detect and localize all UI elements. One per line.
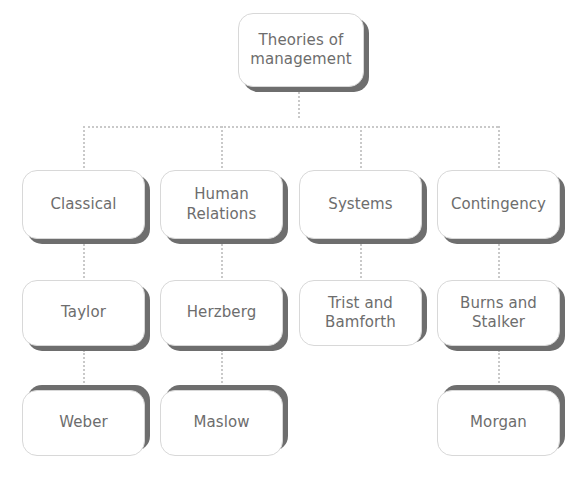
node-morgan-label: Morgan <box>464 413 533 432</box>
node-root-label: Theories of management <box>244 31 357 69</box>
diagram-canvas: Theories of management Classical Human R… <box>0 0 584 479</box>
node-trist-bamforth-label: Trist and Bamforth <box>319 294 402 332</box>
connector-contingency-to-burns <box>498 240 500 282</box>
node-classical[interactable]: Classical <box>22 170 145 239</box>
node-burns-stalker[interactable]: Burns and Stalker <box>437 280 560 346</box>
node-systems-label: Systems <box>322 195 398 214</box>
node-taylor-label: Taylor <box>55 303 112 322</box>
connector-bus-to-contingency <box>498 126 500 172</box>
connector-bus-to-human <box>221 126 223 172</box>
connector-root-stem <box>298 92 300 118</box>
node-systems[interactable]: Systems <box>299 170 422 239</box>
connector-herzberg-to-maslow <box>221 350 223 390</box>
node-root[interactable]: Theories of management <box>238 13 364 87</box>
connector-level2-bus <box>83 126 498 128</box>
connector-taylor-to-weber <box>83 350 85 390</box>
node-contingency[interactable]: Contingency <box>437 170 560 239</box>
node-maslow-label: Maslow <box>187 413 255 432</box>
connector-burns-to-morgan <box>498 350 500 390</box>
node-human-relations-label: Human Relations <box>181 185 263 223</box>
node-morgan[interactable]: Morgan <box>437 390 560 456</box>
connector-classical-to-taylor <box>83 240 85 282</box>
node-burns-stalker-label: Burns and Stalker <box>454 294 543 332</box>
connector-bus-to-systems <box>360 126 362 172</box>
node-classical-label: Classical <box>44 195 122 214</box>
node-maslow[interactable]: Maslow <box>160 390 283 456</box>
connector-bus-to-classical <box>83 126 85 172</box>
node-taylor[interactable]: Taylor <box>22 280 145 346</box>
connector-human-to-herzberg <box>221 240 223 282</box>
node-weber[interactable]: Weber <box>22 390 145 456</box>
node-contingency-label: Contingency <box>445 195 552 214</box>
connector-systems-to-trist <box>360 240 362 282</box>
node-human-relations[interactable]: Human Relations <box>160 170 283 239</box>
node-herzberg-label: Herzberg <box>181 303 263 322</box>
node-trist-bamforth[interactable]: Trist and Bamforth <box>299 280 422 346</box>
node-weber-label: Weber <box>53 413 114 432</box>
node-herzberg[interactable]: Herzberg <box>160 280 283 346</box>
